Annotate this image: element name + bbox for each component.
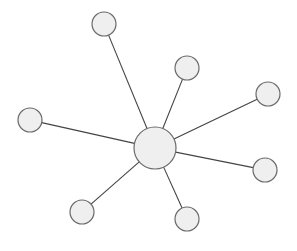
edge-hub-to-leaf-bottom-right: [164, 167, 182, 208]
star-graph-diagram: [0, 0, 297, 251]
edges-group: [42, 35, 257, 208]
leaf-bottom-left-node: [70, 200, 94, 224]
edge-hub-to-leaf-upper-right: [163, 79, 183, 128]
nodes-group: [18, 12, 280, 231]
edge-hub-to-leaf-right: [174, 99, 257, 139]
edge-hub-to-leaf-top: [109, 35, 147, 128]
leaf-right-node: [256, 82, 280, 106]
edge-hub-to-leaf-left: [42, 123, 135, 144]
leaf-left-node: [18, 108, 42, 132]
leaf-top-node: [92, 12, 116, 36]
edge-hub-to-leaf-lower-right: [176, 152, 254, 168]
leaf-bottom-right-node: [175, 207, 199, 231]
leaf-lower-right-node: [253, 158, 277, 182]
hub-node: [134, 127, 176, 169]
edge-hub-to-leaf-bottom-left: [91, 162, 139, 204]
leaf-upper-right-node: [175, 56, 199, 80]
